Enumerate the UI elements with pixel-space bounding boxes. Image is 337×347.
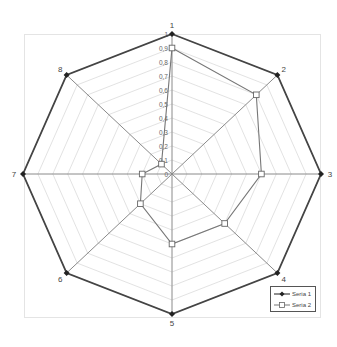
square-marker-icon [222,221,228,227]
diamond-marker-icon [274,290,290,298]
radial-tick-label: 0,4 [159,115,168,122]
category-label: 7 [12,170,17,179]
legend-label: Seria 2 [292,302,311,308]
legend-label: Seria 1 [292,291,311,297]
category-label: 8 [58,65,63,74]
category-label: 1 [170,21,175,30]
legend-item-seria-1: Seria 1 [274,289,311,299]
category-label: 4 [281,275,286,284]
legend-item-seria-2: Seria 2 [274,300,311,310]
category-label: 6 [58,275,63,284]
category-label: 2 [281,65,286,74]
square-marker-icon [169,241,175,247]
radial-tick-label: 0 [164,171,168,178]
diamond-marker-icon [20,171,26,177]
square-marker-icon [139,171,145,177]
square-marker-icon [169,45,175,51]
square-marker-icon [159,161,165,167]
square-marker-icon [259,171,265,177]
diamond-marker-icon [318,171,324,177]
radial-tick-label: 0,8 [159,59,168,66]
diamond-marker-icon [169,31,175,37]
diamond-marker-icon [169,311,175,317]
category-label: 3 [328,170,333,179]
square-marker-icon [138,201,144,207]
square-marker-icon [274,301,290,309]
radial-tick-label: 0,9 [159,45,168,52]
radial-tick-label: 0,7 [159,73,168,80]
radial-tick-label: 0,6 [159,87,168,94]
category-label: 5 [170,319,175,328]
square-marker-icon [253,92,259,98]
legend: Seria 1 Seria 2 [270,286,316,312]
